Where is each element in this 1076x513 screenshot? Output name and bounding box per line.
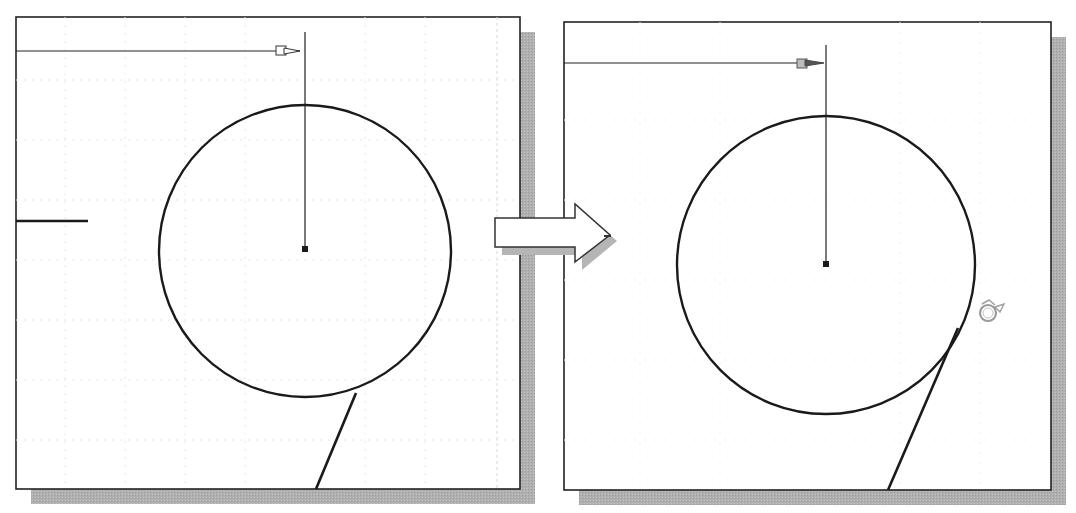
- figure-canvas: [0, 0, 1076, 513]
- circle-center-point[interactable]: [823, 261, 829, 267]
- left-panel: [16, 17, 535, 504]
- right-panel: [564, 22, 1066, 505]
- right-panel-canvas[interactable]: [564, 22, 1051, 490]
- circle-center-point[interactable]: [302, 246, 308, 252]
- left-panel-canvas[interactable]: [16, 17, 520, 489]
